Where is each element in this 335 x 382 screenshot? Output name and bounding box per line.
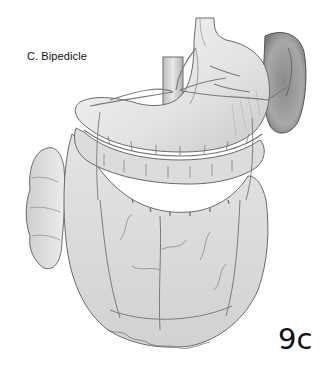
figure-title: C. Bipedicle [27,50,87,62]
illustration-canvas: C. Bipedicle 9c [0,0,335,382]
figure-number: 9c [278,325,312,354]
ascending-colon [26,148,65,269]
